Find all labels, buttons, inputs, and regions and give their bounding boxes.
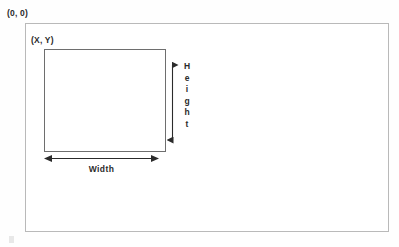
scan-artifact-smudge	[9, 236, 14, 243]
origin-coordinate-label: (0, 0)	[7, 8, 28, 18]
height-label-letter-5: h	[184, 107, 189, 119]
height-label-letter-3: i	[186, 84, 188, 96]
height-label-letter-2: e	[185, 73, 190, 85]
height-label-letter-1: H	[184, 61, 190, 73]
diagram-canvas: (0, 0) (X, Y) H e i g h t	[0, 0, 399, 247]
width-dimension-label: Width	[46, 164, 157, 174]
height-label-letter-6: t	[186, 119, 189, 131]
height-dimension-label: H e i g h t	[181, 61, 193, 130]
height-label-letter-4: g	[184, 96, 189, 108]
element-position-label: (X, Y)	[31, 35, 54, 45]
element-box-rectangle	[44, 49, 166, 152]
